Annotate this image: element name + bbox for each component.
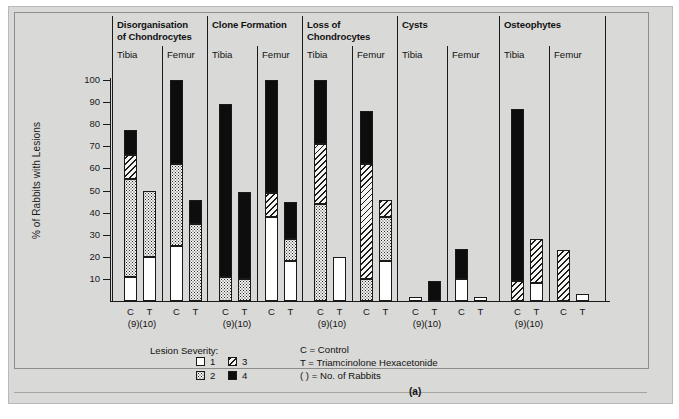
y-tick-label-20: 20 [72, 252, 100, 261]
y-tick-label-70: 70 [72, 141, 100, 150]
group-title-line1-2: Loss of [307, 19, 407, 31]
bar-segment-severity-4 [284, 202, 297, 240]
group-title-line1-0: Disorganisation [117, 19, 217, 31]
bar-segment-severity-4 [455, 249, 468, 279]
group-separator-3 [397, 16, 398, 302]
group-title-1: Clone Formation [212, 19, 312, 31]
x-label-counts-1: (9)(10) [214, 318, 260, 329]
x-label-control-3-1: C [454, 306, 470, 317]
site-label-1-tibia: Tibia [212, 49, 232, 60]
y-tick-100 [103, 80, 110, 81]
y-tick-label-90: 90 [72, 97, 100, 106]
x-label-control-1-0: C [218, 306, 234, 317]
bar-segment-severity-4 [265, 80, 278, 193]
site-label-1-femur: Femur [262, 49, 290, 60]
x-label-treated-1-1: T [283, 306, 299, 317]
group-title-0: Disorganisationof Chondrocytes [117, 19, 217, 42]
site-label-2-tibia: Tibia [307, 49, 327, 60]
bar-segment-severity-2 [360, 279, 373, 301]
group-title-3: Cysts [402, 19, 502, 31]
x-label-control-4-0: C [510, 306, 526, 317]
site-label-3-femur: Femur [452, 49, 480, 60]
x-label-counts-2: (9)(10) [309, 318, 355, 329]
bar-segment-severity-4 [511, 109, 524, 281]
bar-segment-severity-3 [314, 144, 327, 204]
bar-1-tibia-t [238, 192, 251, 301]
site-label-4-tibia: Tibia [504, 49, 524, 60]
x-label-treated-2-1: T [378, 306, 394, 317]
bar-segment-severity-4 [360, 111, 373, 164]
bar-segment-severity-3 [379, 200, 392, 217]
bar-segment-severity-1 [333, 257, 346, 301]
figure-page: % of Rabbits with Lesions 10090807060504… [0, 0, 679, 419]
y-tick-40 [103, 213, 110, 214]
bar-segment-severity-2 [219, 277, 232, 301]
bar-1-femur-c [265, 80, 278, 301]
bar-segment-severity-1 [474, 297, 487, 301]
x-label-counts-4: (9)(10) [506, 318, 552, 329]
legend-title: Lesion Severity: [150, 345, 218, 356]
bar-segment-severity-1 [284, 261, 297, 301]
bar-segment-severity-3 [511, 281, 524, 301]
y-tick-10 [103, 279, 110, 280]
y-tick-30 [103, 235, 110, 236]
bar-4-tibia-t [530, 239, 543, 301]
figure-label: (a) [409, 386, 421, 397]
y-tick-label-10: 10 [72, 274, 100, 283]
bar-segment-severity-3 [265, 193, 278, 217]
bar-segment-severity-1 [409, 297, 422, 301]
y-tick-20 [103, 257, 110, 258]
legend-swatch-severity-3 [228, 357, 237, 366]
group-title-line2-0: of Chondrocytes [117, 31, 217, 43]
bar-3-femur-c [455, 249, 468, 301]
note-rabbit-count: ( ) = No. of Rabbits [300, 370, 381, 383]
site-label-4-femur: Femur [554, 49, 582, 60]
bar-2-femur-c [360, 111, 373, 301]
bar-segment-severity-1 [455, 279, 468, 301]
bar-0-tibia-c [124, 130, 137, 301]
site-label-3-tibia: Tibia [402, 49, 422, 60]
y-tick-label-100: 100 [72, 75, 100, 84]
bar-3-femur-t [474, 297, 487, 301]
group-separator-0 [112, 16, 113, 302]
group-title-4: Osteophytes [504, 19, 604, 31]
bar-0-femur-c [170, 80, 183, 301]
bar-segment-severity-2 [238, 279, 251, 301]
y-tick-label-50: 50 [72, 186, 100, 195]
x-label-treated-2-0: T [332, 306, 348, 317]
legend-label-severity-3: 3 [242, 357, 247, 367]
bar-segment-severity-4 [428, 281, 441, 301]
x-axis-baseline [110, 301, 610, 302]
x-label-control-4-1: C [556, 306, 572, 317]
group-title-line1-4: Osteophytes [504, 19, 604, 31]
bar-4-femur-t [576, 294, 589, 301]
x-label-control-2-0: C [313, 306, 329, 317]
x-label-treated-4-1: T [575, 306, 591, 317]
bar-segment-severity-1 [124, 277, 137, 301]
y-tick-label-60: 60 [72, 163, 100, 172]
bar-3-tibia-t [428, 281, 441, 301]
y-tick-90 [103, 102, 110, 103]
bar-segment-severity-4 [238, 192, 251, 279]
bar-segment-severity-3 [557, 250, 570, 301]
y-axis-title: % of Rabbits with Lesions [31, 111, 42, 251]
legend-label-severity-1: 1 [210, 357, 215, 367]
bar-segment-severity-4 [124, 130, 137, 155]
chart-plot-area: % of Rabbits with Lesions 10090807060504… [0, 0, 679, 419]
group-separator-4 [499, 16, 500, 302]
legend-swatch-severity-2 [196, 371, 205, 380]
group-title-line1-3: Cysts [402, 19, 502, 31]
bar-segment-severity-3 [360, 164, 373, 279]
x-label-treated-3-1: T [473, 306, 489, 317]
bar-segment-severity-1 [265, 217, 278, 301]
group-title-line1-1: Clone Formation [212, 19, 312, 31]
bar-segment-severity-2 [143, 191, 156, 257]
x-label-control-2-1: C [359, 306, 375, 317]
bar-segment-severity-3 [530, 239, 543, 283]
x-label-control-1-1: C [264, 306, 280, 317]
bar-1-tibia-c [219, 104, 232, 301]
x-label-control-0-0: C [123, 306, 139, 317]
site-label-0-femur: Femur [167, 49, 195, 60]
bar-3-tibia-c [409, 297, 422, 301]
group-separator-end [605, 16, 606, 302]
